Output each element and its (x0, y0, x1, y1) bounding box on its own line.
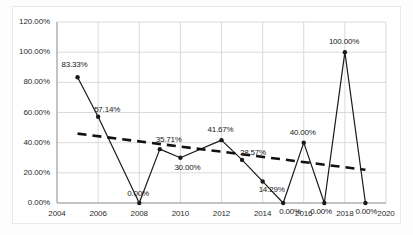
y-axis-tick-label: 40.00% (6, 138, 50, 147)
chart-canvas (0, 0, 413, 235)
data-point-value-label: 57.14% (94, 105, 120, 114)
data-point-marker[interactable] (343, 50, 347, 54)
data-point-value-label: 40.00% (290, 128, 316, 137)
data-point-value-label: 83.33% (62, 60, 88, 69)
x-axis-tick-label: 2006 (81, 209, 115, 218)
data-point-value-label: 0.00% (310, 207, 332, 216)
y-axis-tick-label: 80.00% (6, 77, 50, 86)
y-axis-tick-label: 120.00% (6, 17, 50, 26)
data-point-marker[interactable] (281, 201, 285, 205)
data-point-value-label: 14.29% (259, 185, 285, 194)
data-point-marker[interactable] (260, 179, 264, 183)
data-point-value-label: 100.00% (329, 37, 359, 46)
data-point-marker[interactable] (322, 201, 326, 205)
data-point-marker[interactable] (219, 138, 223, 142)
x-axis-tick-label: 2004 (40, 209, 74, 218)
y-axis-tick-label: 0.00% (6, 198, 50, 207)
data-point-marker[interactable] (363, 201, 367, 205)
data-point-value-label: 0.00% (355, 207, 377, 216)
x-axis-tick-label: 2008 (122, 209, 156, 218)
data-point-marker[interactable] (137, 201, 141, 205)
data-point-value-label: 30.00% (174, 163, 200, 172)
data-point-marker[interactable] (240, 158, 244, 162)
y-axis-tick-label: 60.00% (6, 108, 50, 117)
data-point-marker[interactable] (96, 115, 100, 119)
data-point-marker[interactable] (302, 140, 306, 144)
y-axis-tick-label: 20.00% (6, 168, 50, 177)
data-point-value-label: 0.00% (279, 207, 301, 216)
data-point-value-label: 0.00% (127, 189, 149, 198)
x-axis-tick-label: 2014 (246, 209, 280, 218)
chart-container: 0.00%20.00%40.00%60.00%80.00%100.00%120.… (0, 0, 413, 235)
data-point-value-label: 41.67% (208, 125, 234, 134)
y-axis-tick-label: 100.00% (6, 47, 50, 56)
data-point-value-label: 35.71% (156, 135, 182, 144)
data-point-marker[interactable] (158, 147, 162, 151)
x-axis-tick-label: 2012 (205, 209, 239, 218)
data-point-marker[interactable] (75, 75, 79, 79)
data-point-value-label: 28.57% (240, 148, 266, 157)
x-axis-tick-label: 2010 (163, 209, 197, 218)
data-point-marker[interactable] (178, 156, 182, 160)
